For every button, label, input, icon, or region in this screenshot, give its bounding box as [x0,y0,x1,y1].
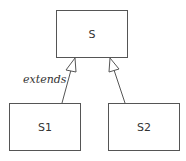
class-label-s: S [89,28,96,41]
class-diagram: S S1 S2 extends [0,0,186,161]
edge-label-extends: extends [23,73,67,86]
class-label-s2: S2 [137,121,151,134]
class-node-s2[interactable]: S2 [109,104,180,151]
edge-line-s2 [114,70,125,103]
class-node-s[interactable]: S [57,11,128,58]
hollow-triangle-arrowhead-icon [66,58,76,72]
edge-s2-extends-s [109,58,125,103]
hollow-triangle-arrowhead-icon [109,58,119,72]
class-node-s1[interactable]: S1 [10,104,81,151]
class-label-s1: S1 [38,121,52,134]
